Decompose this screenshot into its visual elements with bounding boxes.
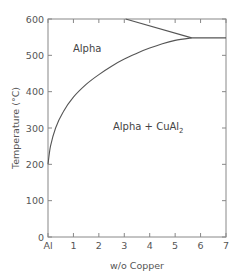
x-tick-label: 3 <box>121 240 127 251</box>
y-tick-label: 200 <box>26 159 44 170</box>
x-tick-label: 6 <box>198 240 204 251</box>
x-tick-label: 2 <box>96 240 102 251</box>
y-axis-title: Temperature (°C) <box>10 87 21 170</box>
x-axis-title: w/o Copper <box>110 260 164 271</box>
y-tick-label: 300 <box>26 123 44 134</box>
phase-boundaries <box>48 19 226 164</box>
x-tick-label: 4 <box>147 240 153 251</box>
y-tick-label: 500 <box>26 50 44 61</box>
region-label-subscript: 2 <box>179 127 183 135</box>
y-tick-label: 400 <box>26 86 44 97</box>
region-label-alpha: Alpha <box>73 43 101 54</box>
x-tick-label: 7 <box>223 240 229 251</box>
curve-solidus <box>126 19 192 38</box>
x-tick-label: Al <box>43 240 52 251</box>
x-tick-label: 5 <box>172 240 178 251</box>
y-tick-label: 0 <box>38 232 44 243</box>
curve-solvus <box>48 38 192 164</box>
region-label-alpha-cual2: Alpha + CuAl2 <box>113 121 184 135</box>
x-tick-label: 1 <box>70 240 76 251</box>
y-tick-label: 600 <box>26 14 44 25</box>
region-label-alpha-cual2-main: Alpha + CuAl <box>113 121 179 132</box>
phase-diagram: Al1234567 0100200300400500600 Alpha Alph… <box>0 0 238 279</box>
y-tick-label: 100 <box>26 195 44 206</box>
